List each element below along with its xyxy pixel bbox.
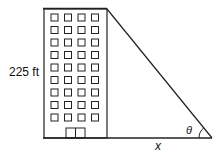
window <box>65 77 72 84</box>
window <box>92 52 99 59</box>
base-label: x <box>155 139 161 153</box>
window <box>51 102 58 109</box>
window <box>92 102 99 109</box>
window <box>65 102 72 109</box>
angle-label: θ <box>186 124 192 136</box>
window <box>78 114 85 121</box>
window <box>65 64 72 71</box>
window <box>92 77 99 84</box>
window <box>51 77 58 84</box>
window <box>65 14 72 21</box>
height-label: 225 ft <box>9 65 39 79</box>
window <box>78 27 85 34</box>
window <box>78 89 85 96</box>
window <box>92 27 99 34</box>
window <box>78 77 85 84</box>
window <box>92 64 99 71</box>
window <box>78 14 85 21</box>
window <box>65 27 72 34</box>
window <box>78 39 85 46</box>
window <box>51 14 58 21</box>
window <box>65 52 72 59</box>
window <box>78 102 85 109</box>
window <box>51 52 58 59</box>
window <box>92 89 99 96</box>
window <box>51 114 58 121</box>
window <box>92 114 99 121</box>
window <box>51 89 58 96</box>
window <box>51 27 58 34</box>
window <box>51 64 58 71</box>
building <box>43 9 107 139</box>
door <box>66 128 85 138</box>
window <box>78 64 85 71</box>
window <box>65 39 72 46</box>
hypotenuse-line <box>107 9 212 138</box>
window <box>92 39 99 46</box>
window <box>65 89 72 96</box>
window <box>65 114 72 121</box>
angle-arc <box>199 128 204 138</box>
window <box>51 39 58 46</box>
window <box>92 14 99 21</box>
window <box>78 52 85 59</box>
